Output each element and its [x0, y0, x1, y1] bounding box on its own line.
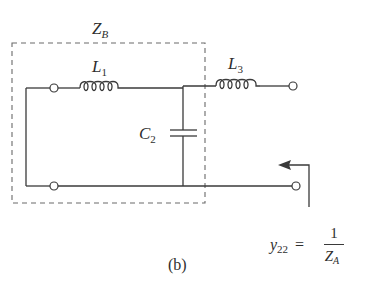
- output-terminal-bottom: [292, 182, 300, 190]
- fraction-bar: [324, 244, 344, 245]
- figure-caption: (b): [168, 257, 187, 273]
- inductor-l3-icon: [216, 80, 260, 89]
- equation-lhs: y22 =: [270, 237, 304, 253]
- zb-dashed-box: [12, 43, 205, 203]
- l1-label: L1: [92, 58, 107, 75]
- circuit-diagram: [0, 0, 365, 286]
- l3-label: L3: [228, 55, 243, 72]
- output-terminal-top: [289, 82, 297, 90]
- equation-denominator: ZA: [320, 249, 344, 264]
- zb-label: ZB: [92, 20, 108, 37]
- c2-label: C2: [139, 125, 156, 142]
- input-terminal-bottom: [50, 182, 58, 190]
- inductor-l1-icon: [80, 82, 124, 91]
- input-terminal-top: [50, 84, 58, 92]
- equation-numerator: 1: [322, 226, 346, 241]
